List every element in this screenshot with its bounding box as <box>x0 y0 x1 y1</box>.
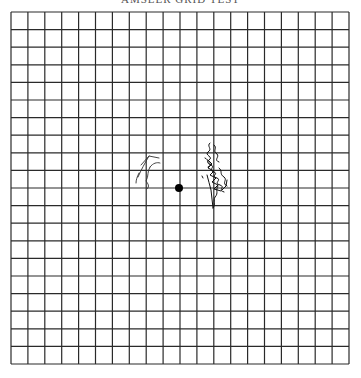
fixation-dot <box>175 184 183 192</box>
left-distortion-mark <box>136 156 160 189</box>
amsler-grid <box>0 0 361 378</box>
